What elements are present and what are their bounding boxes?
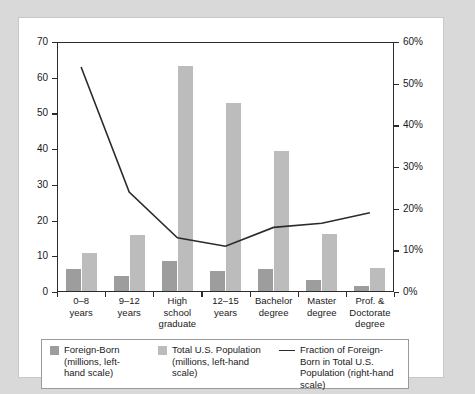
- y-axis-right-tick: 10%: [394, 250, 399, 251]
- y-axis-right-tick: 50%: [394, 84, 399, 85]
- y-axis-left-tick-label: 0: [42, 285, 48, 298]
- legend-label-line: Total U.S. Population: [172, 344, 261, 356]
- y-axis-left-tick-label: 70: [37, 35, 48, 48]
- y-axis-right-tick-label: 30%: [403, 160, 423, 173]
- x-axis-labels: 0–8years9–12yearsHigh schoolgraduate12–1…: [57, 295, 394, 337]
- y-axis-right-tick-label: 60%: [403, 35, 423, 48]
- x-axis-label-line: Master: [298, 295, 346, 307]
- legend-swatch-total-population-icon: [158, 346, 167, 355]
- x-axis-label-line: years: [57, 307, 105, 319]
- x-axis-label: 9–12years: [105, 295, 153, 318]
- y-axis-right-tick-label: 40%: [403, 118, 423, 131]
- y-axis-right-tick: 60%: [394, 42, 399, 43]
- y-axis-right-tick-label: 50%: [403, 77, 423, 90]
- x-axis-label-line: High school: [153, 295, 201, 318]
- legend-label-line: Fraction of Foreign-: [300, 344, 393, 356]
- legend-item-total-population: Total U.S. Population(millions, left-han…: [158, 344, 268, 379]
- legend-item-fraction-line: Fraction of Foreign-Born in Total U.S.Po…: [279, 344, 407, 390]
- y-axis-left-tick-label: 30: [37, 178, 48, 191]
- legend-label-line: Foreign-Born: [64, 344, 120, 356]
- x-axis-label-line: 12–15: [201, 295, 249, 307]
- legend-label-line: Born in Total U.S.: [300, 356, 393, 368]
- y-axis-right-tick: 40%: [394, 125, 399, 126]
- y-axis-left-tick-label: 40: [37, 142, 48, 155]
- legend-label-line: hand scale): [64, 367, 120, 379]
- x-axis-label: Bachelordegree: [250, 295, 298, 318]
- x-axis-tick: [394, 292, 395, 297]
- x-axis-label: 12–15years: [201, 295, 249, 318]
- legend-swatch-foreign-born-icon: [50, 346, 59, 355]
- y-axis-right-tick-label: 0%: [403, 285, 417, 298]
- legend-label-foreign-born: Foreign-Born(millions, left-hand scale): [64, 344, 120, 379]
- legend-item-foreign-born: Foreign-Born(millions, left-hand scale): [50, 344, 145, 379]
- legend-label-line: scale): [300, 379, 393, 391]
- legend-label-fraction-line: Fraction of Foreign-Born in Total U.S.Po…: [300, 344, 393, 390]
- fraction-line-series: [57, 42, 394, 292]
- legend-label-line: (millions, left-hand: [172, 356, 261, 368]
- legend-line-sample-icon: [279, 346, 295, 355]
- legend-label-line: (millions, left-: [64, 356, 120, 368]
- x-axis-label-line: 9–12: [105, 295, 153, 307]
- y-axis-right-tick: 30%: [394, 167, 399, 168]
- legend-label-line: Population (right-hand: [300, 367, 393, 379]
- y-axis-left-tick-label: 10: [37, 249, 48, 262]
- y-axis-left-tick-label: 60: [37, 71, 48, 84]
- chart-figure: 010203040506070 0%10%20%30%40%50%60% 0–8…: [18, 17, 444, 378]
- x-axis-label-line: Doctorate: [346, 307, 394, 319]
- x-axis-label: 0–8years: [57, 295, 105, 318]
- y-axis-left-tick-label: 20: [37, 214, 48, 227]
- legend-label-total-population: Total U.S. Population(millions, left-han…: [172, 344, 261, 379]
- x-axis-label-line: graduate: [153, 318, 201, 330]
- legend-label-line: scale): [172, 367, 261, 379]
- fraction-line-path: [81, 67, 370, 246]
- x-axis-label-line: years: [201, 307, 249, 319]
- x-axis-label-line: degree: [298, 307, 346, 319]
- y-axis-right-tick-label: 20%: [403, 202, 423, 215]
- x-axis-label-line: 0–8: [57, 295, 105, 307]
- x-axis-label: Prof. &Doctoratedegree: [346, 295, 394, 330]
- x-axis-label-line: degree: [250, 307, 298, 319]
- y-axis-right-tick-label: 10%: [403, 243, 423, 256]
- x-axis-label-line: Bachelor: [250, 295, 298, 307]
- x-axis-label-line: degree: [346, 318, 394, 330]
- x-axis-label: High schoolgraduate: [153, 295, 201, 330]
- plot-area: 010203040506070 0%10%20%30%40%50%60%: [57, 42, 394, 292]
- y-axis-right-tick: 20%: [394, 209, 399, 210]
- x-axis-label: Masterdegree: [298, 295, 346, 318]
- chart-legend: Foreign-Born(millions, left-hand scale) …: [41, 339, 409, 389]
- x-axis-label-line: Prof. &: [346, 295, 394, 307]
- y-axis-left-tick-label: 50: [37, 106, 48, 119]
- x-axis-label-line: years: [105, 307, 153, 319]
